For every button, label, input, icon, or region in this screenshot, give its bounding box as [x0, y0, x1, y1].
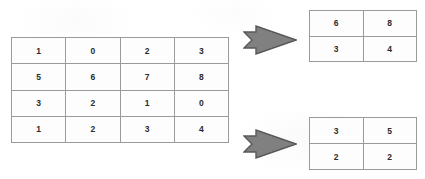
matrix-cell: 2 [66, 91, 120, 117]
block-arrow-right-icon [243, 24, 297, 56]
matrix-cell: 4 [364, 37, 418, 63]
matrix-cell: 3 [310, 37, 364, 63]
input-matrix: 1 0 2 3 5 6 7 8 3 2 1 0 1 2 3 4 [11, 37, 229, 143]
matrix-cell: 1 [12, 38, 66, 64]
matrix-cell: 2 [66, 117, 120, 143]
matrix-cell: 6 [66, 64, 120, 90]
matrix-cell: 3 [121, 117, 175, 143]
matrix-cell: 7 [121, 64, 175, 90]
matrix-cell: 5 [364, 118, 418, 144]
matrix-cell: 3 [310, 118, 364, 144]
matrix-cell: 0 [66, 38, 120, 64]
matrix-cell: 0 [175, 91, 229, 117]
diagram-canvas: 1 0 2 3 5 6 7 8 3 2 1 0 1 2 3 4 6 8 3 4 … [0, 0, 425, 179]
matrix-cell: 8 [175, 64, 229, 90]
matrix-cell: 2 [310, 144, 364, 170]
matrix-cell: 2 [364, 144, 418, 170]
matrix-cell: 3 [12, 91, 66, 117]
matrix-cell: 8 [364, 11, 418, 37]
matrix-cell: 6 [310, 11, 364, 37]
matrix-cell: 3 [175, 38, 229, 64]
matrix-cell: 4 [175, 117, 229, 143]
block-arrow-right-icon [243, 128, 297, 160]
output-matrix-bottom: 3 5 2 2 [309, 117, 417, 170]
output-matrix-top: 6 8 3 4 [309, 10, 417, 62]
matrix-cell: 1 [121, 91, 175, 117]
matrix-cell: 2 [121, 38, 175, 64]
matrix-cell: 1 [12, 117, 66, 143]
matrix-cell: 5 [12, 64, 66, 90]
